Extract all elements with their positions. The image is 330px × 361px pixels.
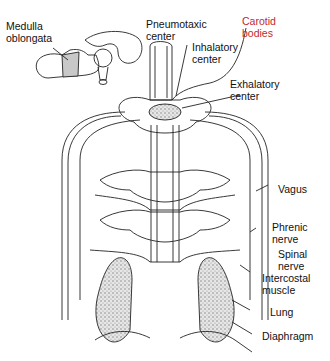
label-medulla-oblongata: Medulla oblongata — [6, 20, 52, 44]
label-pneumotaxic-center: Pneumotaxic center — [146, 18, 207, 42]
label-inhalatory-center: Inhalatory center — [192, 41, 238, 65]
label-spinal-nerve: Spinal nerve — [278, 248, 307, 272]
label-diaphragm: Diaphragm — [262, 330, 313, 342]
label-exhalatory-center: Exhalatory center — [230, 78, 280, 102]
label-vagus: Vagus — [278, 183, 307, 195]
label-carotid-bodies: Carotid bodies — [242, 15, 276, 39]
label-lung: Lung — [270, 306, 293, 318]
label-phrenic-nerve: Phrenic nerve — [272, 221, 308, 245]
respiratory-control-diagram: Medulla oblongata Pneumotaxic center Car… — [0, 0, 330, 361]
label-intercostal-muscle: Intercostal muscle — [262, 272, 310, 296]
